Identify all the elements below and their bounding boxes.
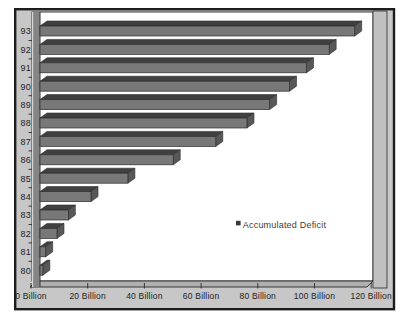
y-axis-label-91: 91 [20, 63, 31, 73]
x-axis-label-5: 100 Billion [294, 291, 335, 301]
bar-84 [40, 187, 98, 202]
x-axis-label-3: 60 Billion [183, 291, 220, 301]
bar-top-face [40, 187, 98, 192]
y-axis-label-84: 84 [20, 192, 31, 202]
y-axis-label-85: 85 [20, 174, 31, 184]
bar-front-face [40, 228, 57, 238]
y-axis-label-88: 88 [20, 118, 31, 128]
bar-top-face [40, 113, 254, 118]
y-axis-label-80: 80 [20, 266, 31, 276]
bar-90 [40, 76, 296, 91]
y-axis-label-87: 87 [20, 137, 31, 147]
legend: Accumulated Deficit [236, 220, 326, 230]
y-axis-label-93: 93 [20, 26, 31, 36]
bar-front-face [40, 44, 329, 54]
bar-83 [40, 205, 75, 220]
bar-front-face [40, 210, 68, 220]
bar-82 [40, 223, 64, 238]
plot-side-wall [373, 11, 387, 288]
bar-91 [40, 58, 313, 73]
x-axis-label-0: 0 Billion [15, 291, 47, 301]
accumulated-deficit-chart: 9392919089888786858483828180 0 Billion20… [0, 0, 408, 317]
legend-label: Accumulated Deficit [243, 220, 327, 230]
bar-front-face [40, 136, 216, 146]
bar-front-face [40, 26, 355, 36]
bar-top-face [40, 131, 223, 136]
chart-figure: 9392919089888786858483828180 0 Billion20… [0, 0, 408, 317]
bar-front-face [40, 118, 247, 128]
bar-top-face [40, 76, 296, 81]
bar-top-face [40, 58, 313, 63]
bar-top-face [40, 21, 362, 26]
y-axis-label-82: 82 [20, 229, 31, 239]
y-axis-label-89: 89 [20, 100, 31, 110]
bar-88 [40, 113, 254, 128]
bar-93 [40, 21, 362, 36]
bar-front-face [40, 192, 91, 202]
bar-front-face [40, 265, 43, 275]
bar-top-face [40, 95, 277, 100]
legend-marker [236, 221, 241, 226]
y-axis-label-81: 81 [20, 247, 31, 257]
bar-top-face [40, 168, 135, 173]
y-axis-label-90: 90 [20, 82, 31, 92]
y-axis-label-83: 83 [20, 210, 31, 220]
bar-86 [40, 150, 180, 165]
axis-column-face [32, 12, 40, 287]
bar-top-face [40, 150, 180, 155]
y-axis-label-86: 86 [20, 155, 31, 165]
bar-front-face [40, 100, 270, 110]
bar-87 [40, 131, 223, 146]
x-axis-label-4: 80 Billion [240, 291, 277, 301]
bar-85 [40, 168, 135, 183]
x-axis-label-2: 40 Billion [126, 291, 163, 301]
y-axis-label-92: 92 [20, 45, 31, 55]
x-axis-label-6: 120 Billion [350, 291, 391, 301]
bar-front-face [40, 155, 173, 165]
bar-92 [40, 39, 336, 54]
bar-89 [40, 95, 277, 110]
bar-front-face [40, 247, 46, 257]
bar-front-face [40, 173, 128, 183]
bar-front-face [40, 81, 289, 91]
bar-top-face [40, 39, 336, 44]
axis-column [32, 12, 40, 287]
x-axis-label-1: 20 Billion [69, 291, 106, 301]
bar-front-face [40, 63, 306, 73]
